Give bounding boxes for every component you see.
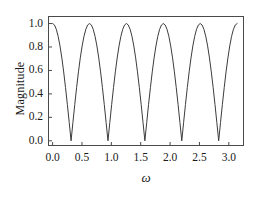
y-tick-label: 1.0 bbox=[14, 18, 43, 30]
y-tick-label: 0.0 bbox=[14, 135, 43, 147]
x-axis-label: ω bbox=[48, 170, 244, 186]
y-axis-label: Magnitude bbox=[13, 47, 28, 131]
x-tick-label: 1.5 bbox=[134, 152, 148, 164]
figure-canvas: 0.00.51.01.52.02.53.0 0.00.20.40.60.81.0… bbox=[0, 0, 259, 197]
x-tick-label: 1.0 bbox=[104, 152, 118, 164]
x-tick-label: 2.5 bbox=[192, 152, 206, 164]
x-tick-label: 2.0 bbox=[163, 152, 177, 164]
x-tick-label: 3.0 bbox=[222, 152, 236, 164]
x-tick-label: 0.5 bbox=[75, 152, 89, 164]
x-tick-label: 0.0 bbox=[45, 152, 59, 164]
